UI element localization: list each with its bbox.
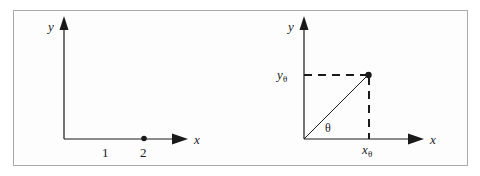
y-theta-base: y [277, 67, 283, 82]
left-tick-label-2: 2 [140, 146, 147, 159]
figure-frame: y x 1 2 y x yθ xθ θ [13, 10, 468, 166]
angle-theta-label: θ [325, 122, 331, 134]
x-theta-base: x [362, 142, 368, 157]
left-point-marker [141, 136, 147, 142]
left-tick-label-1: 1 [102, 146, 109, 159]
left-x-axis-arrowhead [172, 134, 188, 145]
y-theta-subscript: θ [283, 74, 287, 84]
angle-ray-line [304, 76, 367, 139]
right-y-axis-label: y [288, 20, 294, 33]
x-theta-subscript: θ [368, 149, 372, 159]
figure-page: y x 1 2 y x yθ xθ θ [0, 0, 480, 176]
left-y-axis-arrowhead [60, 16, 69, 30]
right-x-axis-arrowhead [408, 134, 424, 145]
x-theta-component-label: xθ [362, 143, 372, 159]
right-y-axis-arrowhead [300, 16, 309, 30]
right-x-axis-label: x [430, 133, 436, 146]
left-x-axis-label: x [194, 133, 200, 146]
y-theta-component-label: yθ [277, 68, 287, 84]
left-y-axis-label: y [48, 20, 54, 33]
right-point-marker [365, 72, 371, 78]
left-panel-graphics [14, 11, 469, 167]
